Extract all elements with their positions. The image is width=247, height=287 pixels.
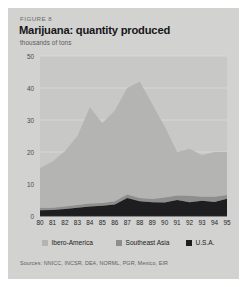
stacked-area-chart (20, 52, 227, 224)
legend-item: Ibero-America (42, 239, 93, 246)
chart-sources: Sources: NNICC, INCSR, DEA, NORML, PGR, … (20, 260, 168, 266)
legend-color-swatch (186, 240, 192, 246)
y-axis-tick-label: 0 (20, 213, 34, 220)
legend-color-swatch (116, 240, 122, 246)
legend-item: U.S.A. (186, 239, 215, 246)
legend-color-swatch (42, 240, 48, 246)
y-axis-tick-label: 50 (20, 53, 34, 60)
figure-panel: FIGURE 8 Marijuana: quantity produced th… (8, 8, 239, 279)
y-axis-tick-label: 20 (20, 149, 34, 156)
figure-label: FIGURE 8 (20, 15, 52, 22)
legend-item: Southeast Asia (116, 239, 170, 246)
chart-legend: Ibero-AmericaSoutheast AsiaU.S.A. (20, 237, 227, 251)
chart-subtitle: thousands of tons (20, 39, 71, 46)
page-title: Marijuana: quantity produced (19, 24, 170, 36)
y-axis-tick-label: 30 (20, 117, 34, 124)
x-axis-tick-label: 95 (220, 219, 234, 226)
legend-label: U.S.A. (196, 239, 215, 246)
y-axis-tick-label: 40 (20, 85, 34, 92)
legend-label: Southeast Asia (126, 239, 170, 246)
chart-plot-area: 0102030405080818283848586878889909192939… (20, 52, 227, 224)
y-axis-tick-label: 10 (20, 181, 34, 188)
legend-label: Ibero-America (52, 239, 93, 246)
